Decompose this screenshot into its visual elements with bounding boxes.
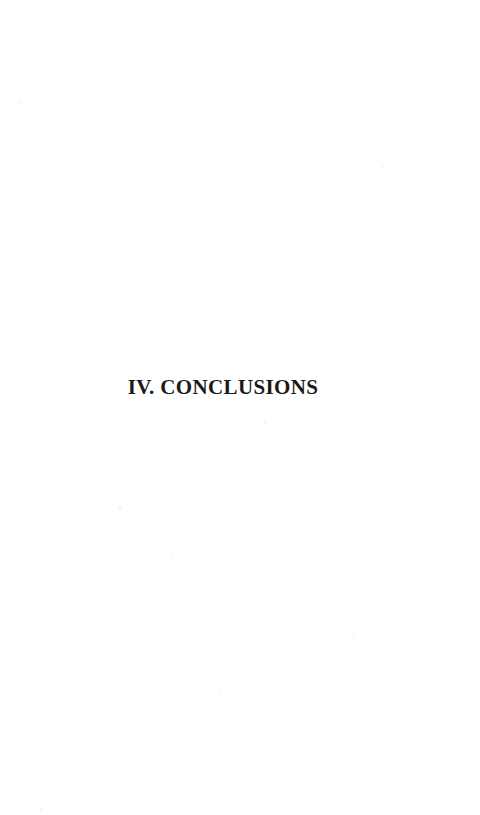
- scan-speckle: [352, 636, 355, 638]
- scan-speckle: [14, 137, 16, 139]
- scan-speckle: [381, 165, 384, 167]
- page-title: IV. CONCLUSIONS: [128, 374, 318, 400]
- scan-speckle: [171, 554, 174, 556]
- scan-speckle: [40, 808, 42, 811]
- document-page: IV. CONCLUSIONS: [0, 0, 480, 815]
- scan-speckle: [424, 27, 426, 29]
- chapter-heading-block: IV. CONCLUSIONS: [0, 360, 480, 414]
- scan-speckle: [118, 506, 122, 509]
- scan-speckle: [406, 641, 408, 643]
- scan-speckle: [264, 421, 266, 424]
- scan-speckle: [18, 101, 20, 104]
- scan-speckle: [11, 557, 13, 559]
- scan-speckle: [218, 692, 221, 694]
